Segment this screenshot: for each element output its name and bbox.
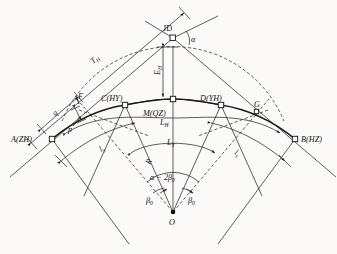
curve-diagram-svg: TH q F p (0, 0, 337, 254)
label-central-angle: α − 2β0 (150, 173, 175, 183)
label-yh: D(YH) (199, 94, 222, 103)
label-hy: C(HY) (101, 94, 123, 103)
label-q: q (51, 108, 60, 118)
label-curve-length-LY: LY (166, 138, 176, 148)
label-zh: A(ZH) (10, 135, 32, 144)
marker-jd (170, 35, 175, 40)
marker-yh (218, 102, 223, 107)
marker-o (171, 210, 176, 215)
label-jd: JD (163, 24, 172, 33)
marker-g (254, 109, 258, 113)
label-spiral-right: ls (233, 148, 242, 159)
radius-lines (77, 47, 269, 212)
label-beta0-left: β0 (145, 196, 153, 206)
label-g: G (254, 100, 260, 109)
marker-qz (170, 96, 175, 101)
label-beta0-right: β0 (187, 196, 195, 206)
label-tangent-length: TH (89, 52, 103, 66)
spiral-length-left-dimension (55, 123, 135, 167)
tangent-extension-upper-right (173, 16, 218, 38)
label-curve-length-LH: LH (159, 118, 170, 128)
marker-hz (292, 136, 297, 141)
label-qz: M(QZ) (142, 109, 166, 118)
label-hz: B(HZ) (301, 135, 322, 144)
label-external-distance: EH (153, 65, 163, 76)
label-alpha: α (191, 35, 196, 44)
alpha-angle-arc (186, 31, 190, 45)
diagram-canvas: TH q F p (0, 0, 337, 254)
label-o: O (169, 218, 175, 227)
marker-zh (49, 136, 54, 141)
marker-hy (122, 102, 127, 107)
label-F: F (77, 92, 84, 101)
